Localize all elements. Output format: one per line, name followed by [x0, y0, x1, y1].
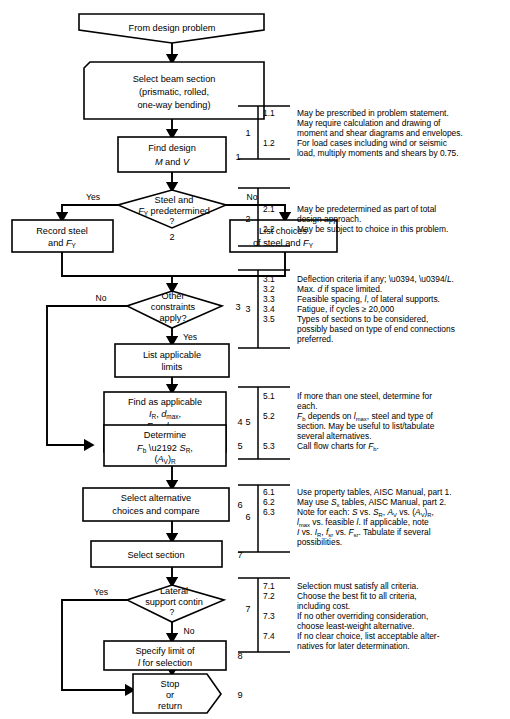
edge-label-lateral-no: No: [184, 626, 195, 636]
note-item-5-3-number: 5.3: [263, 441, 275, 451]
node-other-constraints-step: 3: [235, 302, 240, 312]
edge-merge-steel-branches: [62, 252, 285, 276]
note-group-3-line-5: Types of sections to be considered,: [297, 314, 428, 324]
node-other-constraints[interactable]: Other constraints apply? 3 No Yes: [96, 291, 241, 342]
note-group-7-number: 7: [245, 604, 250, 614]
edge-steel-no-to-list-choices: [226, 205, 285, 220]
node-find-design-label-2: M and V: [155, 157, 190, 167]
node-list-choices-label-2: of steel and FY: [253, 238, 314, 249]
node-other-constraints-label-2: constraints: [151, 302, 196, 312]
node-determine[interactable]: Determine Fb \u2192 SR, (AV)R 5: [104, 425, 243, 466]
node-stop-label-2: or: [166, 690, 174, 700]
note-group-7-line-6: If no clear choice, list acceptable alte…: [297, 631, 440, 641]
node-select-beam-label-3: one-way bending): [137, 100, 210, 110]
edge-label-steel-no: No: [247, 192, 258, 202]
note-group-1-line-4: For load cases including wind or seismic: [297, 138, 447, 148]
note-item-6-3-number: 6.3: [263, 507, 275, 517]
edge-steel-yes-to-record: [62, 205, 118, 220]
node-determine-step: 5: [237, 441, 242, 451]
node-specify-limit-label-2: l for selection: [138, 658, 192, 668]
node-select-alternatives[interactable]: Select alternative choices and compare 6: [83, 488, 243, 521]
edge-label-lateral-yes: Yes: [94, 587, 108, 597]
node-select-beam-label-2: (prismatic, rolled,: [139, 87, 209, 97]
note-group-5-line-4: section. May be useful to list/tabulate: [297, 421, 435, 431]
node-select-alternatives-label-2: choices and compare: [112, 506, 199, 516]
note-group-5-line-2: each.: [297, 401, 318, 411]
note-group-3-line-6: possibly based on type of end connection…: [297, 324, 455, 334]
node-find-design-step: 1: [235, 152, 240, 162]
node-specify-limit-label-1: Specify limit of: [135, 646, 195, 656]
note-group-7-line-2: Choose the best fit to all criteria,: [297, 591, 417, 601]
node-stop-label-3: return: [158, 701, 182, 711]
note-item-6-2-number: 6.2: [263, 497, 275, 507]
note-group-7-line-7: natives for later determination.: [297, 641, 410, 651]
node-stop-step: 9: [237, 690, 242, 700]
note-group-1-line-2: May require calculation and drawing of: [297, 118, 441, 128]
note-item-3-2-number: 3.2: [263, 284, 275, 294]
node-record-steel-label-1: Record steel: [36, 226, 88, 236]
node-find-design[interactable]: Find design M and V 1: [118, 137, 241, 172]
node-list-limits[interactable]: List applicable limits: [115, 344, 229, 377]
note-item-3-5-number: 3.5: [263, 314, 275, 324]
note-group-1: 1 1.1 1.2 May be prescribed in problem s…: [238, 106, 463, 159]
note-group-5-line-1: If more than one steel, determine for: [297, 391, 432, 401]
note-group-7-line-1: Selection must satisfy all criteria.: [297, 581, 418, 591]
node-list-limits-label-1: List applicable: [143, 350, 201, 360]
note-item-7-4-number: 7.4: [263, 631, 275, 641]
node-record-steel[interactable]: Record steel and FY: [12, 220, 113, 252]
note-group-1-line-1: May be prescribed in problem statement.: [297, 108, 449, 118]
node-steel-decision-question-mark: ?: [170, 216, 175, 226]
note-item-5-2-number: 5.2: [263, 411, 275, 421]
node-stop-label-1: Stop: [161, 679, 180, 689]
note-item-7-1-number: 7.1: [263, 581, 275, 591]
note-item-6-1-number: 6.1: [263, 487, 275, 497]
note-item-1-2-number: 1.2: [263, 138, 275, 148]
note-group-3-number: 3: [245, 304, 250, 314]
node-lateral-support[interactable]: Lateral support contin ? Yes No: [94, 585, 224, 636]
note-group-1-line-3: moment and shear diagrams and envelopes.: [297, 128, 463, 138]
node-start[interactable]: From design problem: [79, 14, 264, 43]
note-group-5-line-6: Call flow charts for Fb.: [297, 441, 379, 452]
note-item-7-2-number: 7.2: [263, 591, 275, 601]
note-group-1-number: 1: [245, 128, 250, 138]
node-specify-limit[interactable]: Specify limit of l for selection 8: [104, 641, 243, 670]
node-select-alternatives-step: 6: [237, 500, 242, 510]
node-other-constraints-label-1: Other: [162, 291, 185, 301]
note-group-5-number: 5: [245, 417, 250, 427]
note-group-7-line-4: If no other overriding consideration,: [297, 611, 428, 621]
node-lateral-support-label-2: support contin: [145, 597, 203, 607]
note-group-3-line-3: Feasible spacing, l, of lateral supports…: [297, 294, 440, 304]
note-group-3-line-7: preferred.: [297, 334, 333, 344]
note-group-3: 3 3.1 3.2 3.3 3.4 3.5 Deflection criteri…: [238, 270, 455, 348]
flowchart-canvas: From design problem Select beam section …: [0, 0, 510, 719]
note-group-6-line-1: Use property tables, AISC Manual, part 1…: [297, 487, 452, 497]
node-select-beam-label-1: Select beam section: [133, 74, 216, 84]
node-select-section[interactable]: Select section 7: [91, 541, 243, 567]
note-group-2-line-1: May be predetermined as part of total: [297, 204, 436, 214]
node-select-beam[interactable]: Select beam section (prismatic, rolled, …: [84, 62, 264, 119]
note-group-5: 5 5.1 5.2 5.3 If more than one steel, de…: [238, 387, 435, 459]
node-find-applicable-step: 4: [237, 417, 242, 427]
node-steel-decision-label-1: Steel and: [155, 195, 194, 205]
note-item-1-1-number: 1.1: [263, 108, 275, 118]
note-group-7-line-3: including cost.: [297, 601, 350, 611]
node-select-alternatives-label-1: Select alternative: [121, 493, 191, 503]
node-lateral-support-question-mark: ?: [170, 607, 175, 617]
note-group-6-number: 6: [245, 512, 250, 522]
edge-label-constraints-yes: Yes: [183, 332, 197, 342]
node-stop[interactable]: Stop or return 9: [133, 674, 243, 713]
node-list-limits-shape: [115, 344, 229, 377]
note-group-6: 6 6.1 6.2 6.3 Use property tables, AISC …: [238, 485, 452, 552]
note-group-7: 7 7.1 7.2 7.3 7.4 Selection must satisfy…: [238, 578, 440, 652]
node-determine-label-2: Fb \u2192 SR,: [137, 443, 193, 454]
edge-label-constraints-no: No: [96, 293, 107, 303]
node-other-constraints-label-3: apply?: [159, 313, 186, 323]
node-steel-decision-step: 2: [169, 232, 174, 242]
note-item-3-1-number: 3.1: [263, 274, 275, 284]
note-item-3-4-number: 3.4: [263, 304, 275, 314]
note-group-2-line-3: May be subject to choice in this problem…: [297, 224, 448, 234]
note-group-5-line-5: several alternatives.: [297, 431, 371, 441]
node-select-section-label: Select section: [127, 550, 184, 560]
node-find-applicable-label-1: Find as applicable: [128, 397, 202, 407]
edge-label-steel-yes: Yes: [86, 192, 100, 202]
